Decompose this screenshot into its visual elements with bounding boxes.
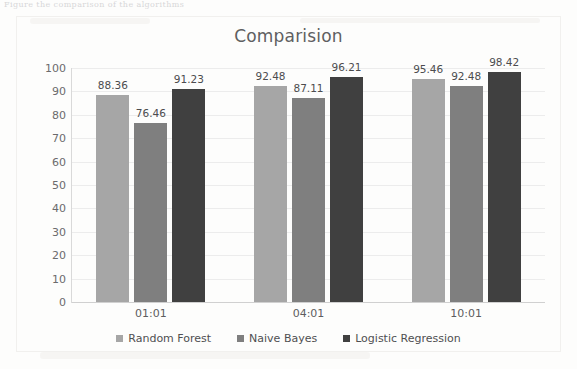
- y-tick-label-70: 70: [28, 132, 66, 145]
- bar-value-label: 95.46: [413, 63, 443, 75]
- y-tick-label-60: 60: [28, 155, 66, 168]
- legend-item-naive-bayes[interactable]: Naive Bayes: [237, 332, 317, 345]
- bar-value-label: 88.36: [98, 79, 128, 91]
- legend-swatch-icon: [343, 335, 350, 342]
- y-tick-label-10: 10: [28, 272, 66, 285]
- bar-group-1001: 95.4692.4898.42: [387, 68, 545, 302]
- bar-groups: 88.3676.4691.2392.4887.1196.2195.4692.48…: [72, 68, 545, 302]
- y-axis-tick-labels: 1009080706050403020100: [22, 0, 66, 369]
- scan-smudge: [40, 352, 370, 359]
- y-tick-label-90: 90: [28, 85, 66, 98]
- bar-group-0401: 92.4887.1196.21: [230, 68, 388, 302]
- category-label-0401: 04:01: [293, 307, 325, 320]
- y-tick-label-80: 80: [28, 108, 66, 121]
- chart-page: Figure the comparison of the algorithms …: [0, 0, 577, 369]
- bar[interactable]: [96, 95, 129, 302]
- bar[interactable]: [450, 86, 483, 302]
- bar-value-label: 98.42: [489, 56, 519, 68]
- y-tick-label-50: 50: [28, 179, 66, 192]
- y-tick-label-20: 20: [28, 249, 66, 262]
- bar[interactable]: [412, 79, 445, 302]
- bar[interactable]: [254, 86, 287, 302]
- chart-legend: Random ForestNaive BayesLogistic Regress…: [0, 332, 577, 345]
- bar[interactable]: [172, 89, 205, 302]
- bar-value-label: 76.46: [136, 107, 166, 119]
- bar[interactable]: [330, 77, 363, 302]
- scan-top-cutoff-text: Figure the comparison of the algorithms: [0, 0, 577, 12]
- bar-group-0101: 88.3676.4691.23: [72, 68, 230, 302]
- x-axis-category-labels: 01:0104:0110:01: [72, 307, 545, 325]
- legend-label: Logistic Regression: [355, 332, 461, 345]
- bar-value-label: 92.48: [255, 70, 285, 82]
- chart-title: Comparision: [0, 26, 577, 46]
- legend-label: Naive Bayes: [249, 332, 317, 345]
- bar[interactable]: [134, 123, 167, 302]
- legend-swatch-icon: [237, 335, 244, 342]
- bar-value-label: 96.21: [331, 61, 361, 73]
- bar-value-label: 91.23: [174, 73, 204, 85]
- bar[interactable]: [292, 98, 325, 302]
- y-tick-label-100: 100: [28, 62, 66, 75]
- legend-swatch-icon: [116, 335, 123, 342]
- y-tick-label-30: 30: [28, 225, 66, 238]
- legend-item-random-forest[interactable]: Random Forest: [116, 332, 211, 345]
- bar[interactable]: [488, 72, 521, 302]
- legend-item-logistic-regression[interactable]: Logistic Regression: [343, 332, 461, 345]
- legend-label: Random Forest: [128, 332, 211, 345]
- y-tick-label-40: 40: [28, 202, 66, 215]
- bar-value-label: 92.48: [451, 70, 481, 82]
- x-axis-line: [72, 302, 545, 303]
- y-tick-label-0: 0: [28, 296, 66, 309]
- category-label-0101: 01:01: [135, 307, 167, 320]
- bar-value-label: 87.11: [293, 82, 323, 94]
- category-label-1001: 10:01: [450, 307, 482, 320]
